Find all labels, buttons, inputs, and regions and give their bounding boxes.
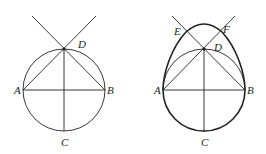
- diagram-canvas: D A B C E F D A B C: [0, 0, 266, 154]
- right-line-b-through-d: [172, 16, 245, 90]
- left-label-d: D: [77, 38, 86, 50]
- right-label-a: A: [153, 84, 161, 96]
- left-point-d: [63, 48, 65, 50]
- right-point-d: [203, 48, 205, 50]
- left-label-c: C: [61, 136, 69, 148]
- right-label-c: C: [201, 136, 209, 148]
- left-label-a: A: [13, 84, 21, 96]
- right-label-f: F: [222, 23, 230, 35]
- left-label-b: B: [107, 84, 114, 96]
- left-line-a-through-d: [23, 16, 96, 90]
- left-figure: [23, 16, 105, 131]
- left-line-b-through-d: [32, 16, 105, 90]
- right-label-e: E: [173, 25, 181, 37]
- right-label-d: D: [213, 41, 222, 53]
- right-label-b: B: [247, 84, 254, 96]
